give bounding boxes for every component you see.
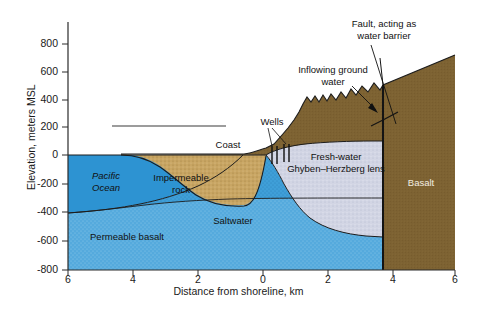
x-tick-label-2-left: 2 <box>188 274 208 285</box>
cross-section-drawing <box>0 0 477 309</box>
basalt-upper-slope <box>383 55 455 270</box>
x-tick-label-4-left: 4 <box>123 274 143 285</box>
y-tick-label-m400: -400 <box>15 206 58 217</box>
label-coast: Coast <box>206 140 250 151</box>
label-freshwater-line2: Ghyben–Herzberg lens <box>282 164 390 175</box>
callout-inflowing-ground-water-line1: Inflowing ground <box>278 64 388 75</box>
x-tick-label-0: 0 <box>253 274 273 285</box>
label-permeable-basalt: Permeable basalt <box>72 232 182 243</box>
y-axis-title: Elevation, meters MSL <box>26 62 37 212</box>
callout-inflowing-ground-water-line2: water <box>278 76 388 87</box>
label-wells: Wells <box>250 117 294 128</box>
label-basalt: Basalt <box>398 178 444 189</box>
x-tick-label-6-right: 6 <box>445 274 465 285</box>
label-impermeable-rock-line2: rock <box>142 185 220 196</box>
label-pacific-ocean-line2: Ocean <box>76 183 136 194</box>
wells-leader-1 <box>268 128 272 146</box>
label-freshwater-line1: Fresh-water <box>300 152 372 163</box>
x-tick-label-4-right: 4 <box>383 274 403 285</box>
x-tick-label-6-left: 6 <box>58 274 78 285</box>
callout-fault-line1: Fault, acting as <box>330 18 438 29</box>
x-axis-title: Distance from shoreline, km <box>0 286 477 297</box>
label-impermeable-rock-line1: Impermeable <box>142 173 220 184</box>
label-pacific-ocean-line1: Pacific <box>76 171 136 182</box>
y-tick-label-800: 800 <box>20 38 58 49</box>
callout-fault-line2: water barrier <box>330 30 438 41</box>
x-tick-label-2-right: 2 <box>318 274 338 285</box>
y-tick-label-m800: -800 <box>15 264 58 275</box>
y-tick-label-m600: -600 <box>15 235 58 246</box>
label-saltwater: Saltwater <box>198 216 268 227</box>
cross-section-figure: 800 600 400 200 0 -200 -400 -600 -800 6 … <box>0 0 477 309</box>
